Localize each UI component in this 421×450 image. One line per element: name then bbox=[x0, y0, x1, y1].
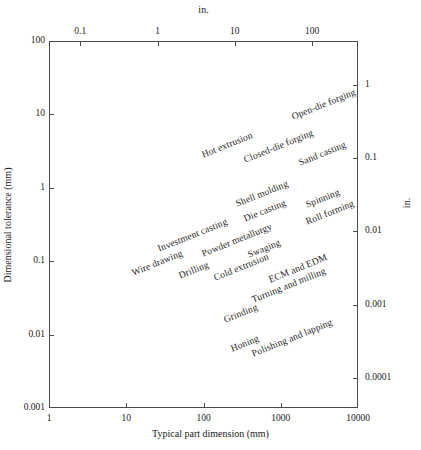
tick-mark bbox=[49, 335, 54, 336]
tick-mark bbox=[158, 41, 159, 46]
tick-mark bbox=[353, 158, 358, 159]
tick-mark bbox=[204, 403, 205, 408]
bottom-tick-label: 1000 bbox=[271, 414, 290, 424]
right-tick-label: 0.001 bbox=[365, 300, 386, 310]
top-tick-label: 100 bbox=[305, 27, 319, 37]
top-tick-label: 0.1 bbox=[74, 27, 86, 37]
tick-mark bbox=[49, 114, 54, 115]
left-tick-label: 10 bbox=[13, 110, 45, 120]
tick-mark bbox=[353, 378, 358, 379]
left-tick-label: 1 bbox=[13, 183, 45, 193]
left-tick-label: 100 bbox=[13, 36, 45, 46]
left-tick-label: 0.01 bbox=[13, 330, 45, 340]
left-tick-label: 0.1 bbox=[13, 256, 45, 266]
tick-mark bbox=[235, 41, 236, 46]
bottom-tick-label: 10 bbox=[122, 414, 132, 424]
top-tick-label: 10 bbox=[230, 27, 240, 37]
right-tick-label: 0.01 bbox=[365, 227, 382, 237]
left-axis-title: Dimensional tolerance (mm) bbox=[2, 167, 13, 282]
tick-mark bbox=[312, 41, 313, 46]
tick-mark bbox=[126, 403, 127, 408]
tick-mark bbox=[353, 231, 358, 232]
tick-mark bbox=[49, 261, 54, 262]
right-tick-label: 1 bbox=[365, 80, 370, 90]
tick-mark bbox=[49, 188, 54, 189]
right-tick-label: 0.0001 bbox=[365, 374, 391, 384]
bottom-tick-label: 100 bbox=[196, 414, 210, 424]
tick-mark bbox=[353, 85, 358, 86]
bottom-tick-label: 1 bbox=[47, 414, 52, 424]
bottom-tick-label: 10000 bbox=[346, 414, 370, 424]
tick-mark bbox=[353, 305, 358, 306]
top-tick-label: 1 bbox=[155, 27, 160, 37]
top-axis-title: in. bbox=[198, 4, 208, 15]
left-tick-label: 0.001 bbox=[13, 403, 45, 413]
tick-mark bbox=[80, 41, 81, 46]
chart-canvas: in. 0.1110100 110100100010000 1001010.10… bbox=[0, 0, 421, 450]
tick-mark bbox=[281, 403, 282, 408]
bottom-axis-title: Typical part dimension (mm) bbox=[0, 428, 421, 439]
right-axis-title: in. bbox=[401, 197, 412, 207]
right-tick-label: 0.1 bbox=[365, 153, 377, 163]
